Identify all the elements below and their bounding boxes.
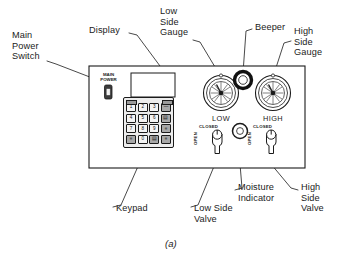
keypad-key-2[interactable]: 2: [138, 103, 148, 112]
keypad-function-key[interactable]: ≡: [161, 124, 171, 133]
main-power-silkscreen: MAIN POWER: [96, 72, 121, 82]
keypad-key-0[interactable]: 0: [138, 135, 148, 144]
moisture-indicator: [233, 124, 248, 139]
keypad[interactable]: 123—456▤789≡≡0▤≡: [126, 103, 171, 144]
leader-main-power-switch: [47, 61, 95, 79]
high-valve-closed-label: CLOSED: [253, 124, 272, 129]
low-gauge-label: LOW: [212, 114, 230, 123]
high-gauge-label: HIGH: [263, 114, 283, 123]
main-power-switch: [105, 85, 113, 99]
beeper: [235, 72, 252, 89]
figure-control-panel-diagram: Main Power Switch Display Low Side Gauge…: [0, 0, 345, 264]
keypad-key-9[interactable]: 9: [149, 124, 159, 133]
keypad-key-8[interactable]: 8: [138, 124, 148, 133]
keypad-key-6[interactable]: 6: [149, 114, 159, 123]
keypad-function-key[interactable]: ▤: [149, 135, 159, 144]
low-valve-open-label: OPEN: [193, 132, 198, 145]
keypad-key-4[interactable]: 4: [126, 114, 136, 123]
low-valve-closed-label: CLOSED: [199, 124, 218, 129]
keypad-corner-key-left[interactable]: [126, 100, 137, 105]
display-screen: [131, 73, 175, 97]
keypad-key-5[interactable]: 5: [138, 114, 148, 123]
leader-low-side-valve: [191, 164, 215, 207]
high-valve-open-label: OPEN: [247, 132, 252, 145]
keypad-corner-key-right[interactable]: [162, 100, 173, 105]
keypad-function-key[interactable]: ▤: [161, 114, 171, 123]
keypad-key-3[interactable]: 3: [149, 103, 159, 112]
keypad-key-7[interactable]: 7: [126, 124, 136, 133]
leader-display: [129, 33, 160, 66]
keypad-function-key[interactable]: ≡: [126, 135, 136, 144]
keypad-function-key[interactable]: ≡: [161, 135, 171, 144]
